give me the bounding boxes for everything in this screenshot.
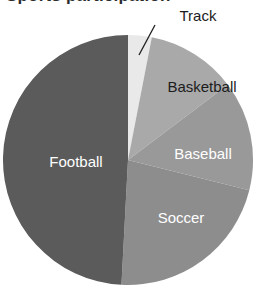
slice-label-football: Football	[49, 153, 102, 170]
slice-label-baseball: Baseball	[174, 145, 232, 162]
slice-label-basketball: Basketball	[167, 78, 236, 95]
slice-label-soccer: Soccer	[158, 209, 205, 226]
pie-chart-svg: TrackBasketballBaseballSoccerFootball	[0, 0, 262, 296]
pie-chart-figure: Sports participation TrackBasketballBase…	[0, 0, 262, 296]
slice-label-track: Track	[180, 7, 217, 24]
